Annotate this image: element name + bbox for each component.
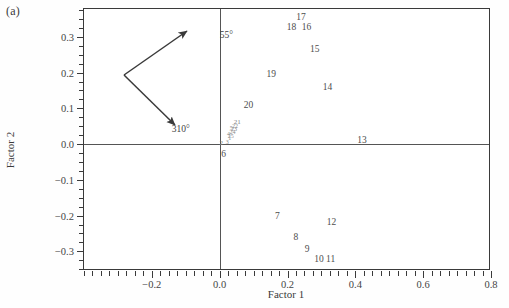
x-axis-tick-major bbox=[220, 271, 221, 278]
data-point-label: 10 bbox=[314, 256, 324, 266]
x-axis-tick-minor bbox=[203, 271, 204, 276]
x-axis-tick-minor bbox=[101, 271, 102, 276]
y-axis-tick-minor bbox=[79, 260, 84, 261]
y-axis-tick-label: −0.2 bbox=[55, 210, 74, 221]
y-axis-tick-minor bbox=[79, 64, 84, 65]
x-axis-tick-minor bbox=[483, 271, 484, 276]
x-axis-tick-minor bbox=[84, 271, 85, 276]
y-axis-tick-label: 0.1 bbox=[61, 103, 74, 114]
y-axis-tick-major bbox=[77, 144, 84, 145]
data-point-label: 13 bbox=[357, 137, 367, 147]
data-point-label: 18 bbox=[287, 23, 297, 33]
x-axis-tick-minor bbox=[296, 271, 297, 276]
y-axis-tick-label: −0.3 bbox=[55, 246, 74, 257]
x-axis-tick-minor bbox=[372, 271, 373, 276]
x-axis-title: Factor 1 bbox=[268, 288, 304, 300]
x-axis-tick-minor bbox=[415, 271, 416, 276]
panel-label: (a) bbox=[6, 4, 20, 19]
x-axis-tick-minor bbox=[381, 271, 382, 276]
x-axis-tick-minor bbox=[254, 271, 255, 276]
y-axis-tick-minor bbox=[79, 207, 84, 208]
y-axis-tick-minor bbox=[79, 82, 84, 83]
data-point-label: 16 bbox=[302, 23, 312, 33]
x-axis-tick-label: 0.8 bbox=[484, 279, 497, 290]
y-axis-tick-major bbox=[77, 251, 84, 252]
y-axis-tick-minor bbox=[79, 242, 84, 243]
x-axis-tick-minor bbox=[194, 271, 195, 276]
x-axis-tick-major bbox=[423, 271, 424, 278]
x-axis-tick-minor bbox=[432, 271, 433, 276]
y-axis-tick-minor bbox=[79, 189, 84, 190]
y-axis-tick-minor bbox=[79, 153, 84, 154]
x-axis-tick-minor bbox=[228, 271, 229, 276]
y-axis-tick-minor bbox=[79, 99, 84, 100]
x-axis-tick-minor bbox=[474, 271, 475, 276]
y-axis-tick-minor bbox=[79, 55, 84, 56]
x-axis-tick-minor bbox=[169, 271, 170, 276]
y-axis-tick-minor bbox=[79, 90, 84, 91]
x-axis-tick-major bbox=[355, 271, 356, 278]
y-axis-tick-major bbox=[77, 108, 84, 109]
y-axis-tick-minor bbox=[79, 162, 84, 163]
x-axis-tick-minor bbox=[389, 271, 390, 276]
y-axis-tick-major bbox=[77, 73, 84, 74]
x-axis-tick-minor bbox=[160, 271, 161, 276]
data-point-label: 15 bbox=[310, 46, 320, 56]
y-axis-tick-minor bbox=[79, 117, 84, 118]
angle-55-label: 55° bbox=[220, 30, 233, 40]
x-axis-tick-label: 0.0 bbox=[213, 279, 226, 290]
x-axis-tick-minor bbox=[364, 271, 365, 276]
x-axis-tick-minor bbox=[92, 271, 93, 276]
y-axis-tick-minor bbox=[79, 171, 84, 172]
y-axis-tick-minor bbox=[79, 46, 84, 47]
x-axis-tick-minor bbox=[109, 271, 110, 276]
data-point-label: 20 bbox=[244, 101, 254, 111]
x-axis-tick-minor bbox=[440, 271, 441, 276]
y-axis-tick-minor bbox=[79, 10, 84, 11]
x-axis-tick-label: −0.2 bbox=[142, 279, 161, 290]
y-axis-tick-minor bbox=[79, 28, 84, 29]
x-axis-tick-minor bbox=[321, 271, 322, 276]
y-axis-tick-major bbox=[77, 180, 84, 181]
x-axis-tick-minor bbox=[313, 271, 314, 276]
x-axis-tick-minor bbox=[126, 271, 127, 276]
x-axis-tick-minor bbox=[279, 271, 280, 276]
x-axis-tick-minor bbox=[211, 271, 212, 276]
y-axis-tick-minor bbox=[79, 135, 84, 136]
y-axis-tick-label: 0.2 bbox=[61, 67, 74, 78]
data-point-label: 12 bbox=[327, 219, 337, 229]
data-point-label: 17 bbox=[296, 14, 306, 24]
x-axis-tick-minor bbox=[304, 271, 305, 276]
y-axis-tick-minor bbox=[79, 126, 84, 127]
data-point-label: 19 bbox=[266, 71, 276, 81]
data-point-label: 25 bbox=[228, 133, 234, 139]
x-axis-tick-minor bbox=[330, 271, 331, 276]
x-axis-tick-minor bbox=[466, 271, 467, 276]
y-axis-tick-label: −0.1 bbox=[55, 174, 74, 185]
y-axis-tick-minor bbox=[79, 233, 84, 234]
y-axis-tick-major bbox=[77, 37, 84, 38]
x-axis-tick-minor bbox=[398, 271, 399, 276]
data-point-label: 3 bbox=[226, 139, 229, 145]
x-axis-tick-minor bbox=[338, 271, 339, 276]
x-axis-tick-minor bbox=[457, 271, 458, 276]
y-axis-tick-minor bbox=[79, 198, 84, 199]
data-point-label: 6 bbox=[221, 150, 226, 160]
data-point-label: 14 bbox=[323, 83, 333, 93]
data-point-label: 7 bbox=[275, 213, 280, 223]
data-point-label: 9 bbox=[305, 245, 310, 255]
y-axis-title: Factor 2 bbox=[4, 132, 16, 168]
angle-arrows bbox=[84, 9, 491, 271]
x-axis-tick-major bbox=[152, 271, 153, 278]
y-axis-tick-label: 0.0 bbox=[61, 139, 74, 150]
x-axis-tick-minor bbox=[347, 271, 348, 276]
data-point-label: 2 bbox=[220, 140, 224, 147]
x-axis-tick-minor bbox=[262, 271, 263, 276]
x-axis-tick-minor bbox=[143, 271, 144, 276]
x-axis-tick-minor bbox=[118, 271, 119, 276]
x-axis-tick-minor bbox=[406, 271, 407, 276]
x-axis-tick-minor bbox=[186, 271, 187, 276]
x-axis-tick-minor bbox=[245, 271, 246, 276]
x-axis-tick-label: 0.4 bbox=[349, 279, 362, 290]
y-axis-tick-major bbox=[77, 216, 84, 217]
